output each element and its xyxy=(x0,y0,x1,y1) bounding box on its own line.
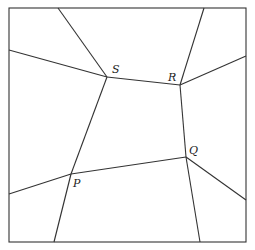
vertex-label-s: S xyxy=(112,64,120,75)
edge xyxy=(180,56,246,85)
edge xyxy=(71,157,186,174)
edges xyxy=(9,8,246,242)
outer-frame xyxy=(9,8,246,242)
diagram-canvas xyxy=(0,0,255,250)
edge xyxy=(186,157,200,242)
edge xyxy=(180,85,186,157)
vertex-label-r: R xyxy=(168,72,176,83)
edge xyxy=(71,77,107,174)
diagram: S R Q P xyxy=(0,0,255,250)
edge xyxy=(9,174,71,194)
edge xyxy=(58,8,107,77)
edge xyxy=(186,157,246,200)
vertex-label-q: Q xyxy=(189,145,198,156)
edge xyxy=(9,50,107,77)
vertex-label-p: P xyxy=(73,178,80,189)
edge xyxy=(54,174,71,242)
edge xyxy=(180,8,204,85)
